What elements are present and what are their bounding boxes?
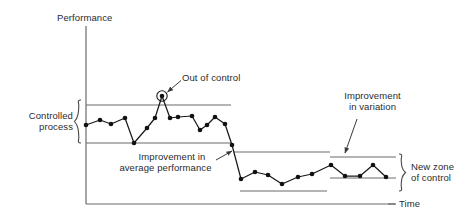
improvement-average-label-line1: Improvement in — [126, 152, 218, 163]
new-zone-label-line2: of control — [411, 173, 451, 184]
out-of-control-label: Out of control — [182, 73, 240, 84]
data-point — [190, 114, 195, 119]
data-point — [266, 173, 271, 178]
improvement-average-label-line2: average performance — [113, 163, 218, 174]
improvement-variation-arrow — [345, 119, 357, 153]
data-point — [176, 115, 181, 120]
data-point-out-of-control — [160, 94, 165, 99]
data-point — [280, 182, 285, 187]
data-point — [168, 116, 173, 121]
data-point — [132, 141, 137, 146]
y-axis-label: Performance — [57, 13, 112, 24]
data-point — [109, 122, 114, 127]
data-point — [358, 174, 363, 179]
x-axis-label: Time — [399, 199, 420, 210]
data-point — [84, 123, 89, 128]
data-point — [310, 172, 315, 177]
data-point — [153, 116, 158, 121]
improvement-variation-label-line2: in variation — [330, 102, 415, 113]
new-zone-brace — [399, 154, 406, 191]
data-point — [239, 177, 244, 182]
data-point — [145, 126, 150, 131]
data-point — [329, 163, 334, 168]
data-point — [123, 116, 128, 121]
data-point — [205, 123, 210, 128]
data-point — [371, 163, 376, 168]
data-point — [343, 174, 348, 179]
out-of-control-arrow — [168, 81, 182, 93]
controlled-process-label-line2: process — [0, 122, 73, 133]
data-point — [230, 143, 235, 148]
controlled-process-label-line1: Controlled — [0, 111, 73, 122]
controlled-process-brace — [75, 100, 82, 143]
control-chart-figure: Performance Controlled process Out of co… — [0, 0, 471, 222]
data-point — [98, 118, 103, 123]
data-point — [384, 175, 389, 180]
phase1-control-limits — [86, 105, 231, 143]
data-point — [213, 115, 218, 120]
data-point — [198, 128, 203, 133]
new-zone-label-line1: New zone — [411, 162, 454, 173]
data-point — [223, 122, 228, 127]
data-point — [296, 175, 301, 180]
improvement-variation-label-line1: Improvement — [330, 91, 415, 102]
improvement-average-arrow — [216, 151, 232, 160]
data-point — [253, 170, 258, 175]
